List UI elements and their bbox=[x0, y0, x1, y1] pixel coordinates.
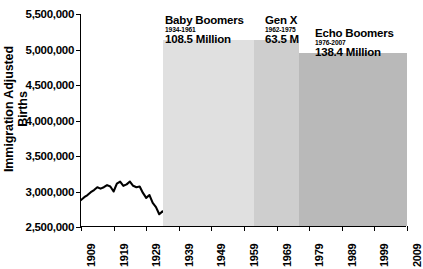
annotation-baby-boomers: Baby Boomers1934-1961108.5 Million bbox=[165, 14, 244, 45]
annotation-years: 1976-2007 bbox=[315, 39, 394, 46]
annotation-title: Echo Boomers bbox=[315, 27, 394, 39]
generation-band-baby-boomers bbox=[163, 40, 254, 226]
y-axis-tick-mark bbox=[76, 85, 81, 86]
annotation-title: Baby Boomers bbox=[165, 14, 244, 26]
x-axis-tick-label: 1999 bbox=[378, 244, 390, 267]
y-axis-tick-label: 2,500,000 bbox=[4, 221, 74, 233]
annotation-years: 1934-1961 bbox=[165, 26, 244, 33]
x-axis-tick-mark bbox=[407, 226, 408, 231]
x-axis-tick-label: 2009 bbox=[411, 244, 423, 267]
x-axis-tick-label: 1939 bbox=[183, 244, 195, 267]
y-axis-tick-mark bbox=[76, 50, 81, 51]
y-axis-tick-label: 4,500,000 bbox=[4, 79, 74, 91]
x-axis-tick-label: 1929 bbox=[150, 244, 162, 267]
y-axis-tick-mark bbox=[76, 121, 81, 122]
y-axis-tick-label: 5,500,000 bbox=[4, 8, 74, 20]
y-axis-tick-mark bbox=[76, 192, 81, 193]
annotation-gen-x: Gen X1962-197563.5 M bbox=[265, 14, 299, 45]
annotation-count: 138.4 Million bbox=[315, 46, 394, 58]
y-axis-tick-mark bbox=[76, 156, 81, 157]
y-axis-tick-label: 5,000,000 bbox=[4, 44, 74, 56]
annotation-count: 63.5 M bbox=[265, 33, 299, 45]
annotation-echo-boomers: Echo Boomers1976-2007138.4 Million bbox=[315, 27, 394, 58]
y-axis-tick-mark bbox=[76, 14, 81, 15]
x-axis-tick-label: 1989 bbox=[346, 244, 358, 267]
generation-band-gen-x bbox=[254, 40, 300, 226]
x-axis-tick-label: 1909 bbox=[85, 244, 97, 267]
annotation-years: 1962-1975 bbox=[265, 26, 299, 33]
births-line-chart: Immigration Adjusted Births 5,500,0005,0… bbox=[0, 0, 423, 269]
y-axis-tick-label: 3,000,000 bbox=[4, 186, 74, 198]
annotation-count: 108.5 Million bbox=[165, 33, 244, 45]
y-axis-tick-labels: 5,500,0005,000,0004,500,0004,000,0003,50… bbox=[0, 0, 74, 269]
x-axis-tick-label: 1919 bbox=[118, 244, 130, 267]
generation-band-echo-boomers bbox=[299, 53, 407, 226]
x-axis-tick-label: 1979 bbox=[313, 244, 325, 267]
x-axis-tick-labels: 1909191919291939194919591969197919891999… bbox=[80, 231, 406, 269]
y-axis-tick-label: 3,500,000 bbox=[4, 150, 74, 162]
y-axis-tick-label: 4,000,000 bbox=[4, 115, 74, 127]
x-axis-tick-label: 1959 bbox=[248, 244, 260, 267]
annotation-title: Gen X bbox=[265, 14, 299, 26]
x-axis-tick-label: 1949 bbox=[215, 244, 227, 267]
x-axis-tick-label: 1969 bbox=[281, 244, 293, 267]
